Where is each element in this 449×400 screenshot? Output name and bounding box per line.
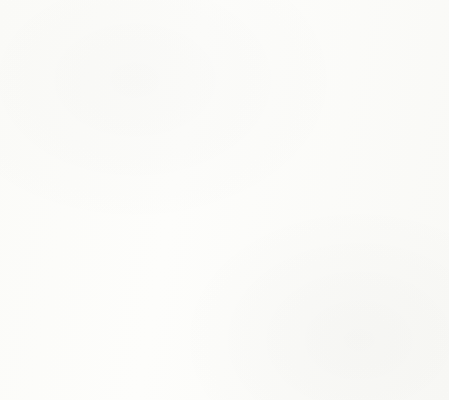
- chart-canvas: [0, 0, 449, 400]
- figure-container: [0, 0, 449, 400]
